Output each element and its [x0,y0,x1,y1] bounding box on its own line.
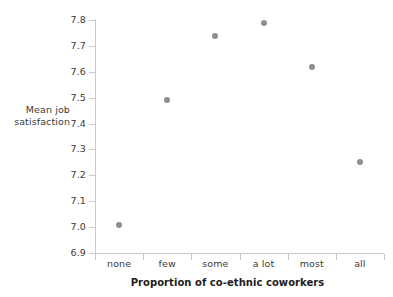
scatter-chart: 7.87.77.67.57.47.37.27.17.06.9 nonefewso… [0,0,393,297]
y-axis-tick-label: 7.6 [71,67,86,77]
y-axis-tick [89,124,95,125]
data-point [261,20,267,26]
x-axis-tick [240,254,241,260]
y-axis-tick [89,46,95,47]
x-axis-title: Proportion of co-ethnic coworkers [0,277,393,288]
x-axis-tick [143,254,144,260]
y-axis-tick-label: 7.8 [71,15,86,25]
y-axis-tick [89,227,95,228]
x-axis-category-label: a lot [253,258,275,269]
y-axis-tick-label: 6.9 [71,248,86,258]
x-axis-category-label: all [354,258,365,269]
x-axis-category-label: some [202,258,228,269]
y-axis-tick-label: 7.7 [71,41,86,51]
y-axis-title: Mean job satisfaction [4,104,70,128]
data-point [116,222,122,228]
y-axis-title-line-1: Mean job [4,104,70,116]
y-axis-tick [89,72,95,73]
y-axis-tick-label: 7.2 [71,171,86,181]
y-axis-tick [89,149,95,150]
y-axis-tick-label: 7.5 [71,93,86,103]
y-axis-tick [89,201,95,202]
y-axis-title-line-2: satisfaction [4,116,70,128]
y-axis-tick-label: 7.0 [71,222,86,232]
data-point [212,33,218,39]
x-axis-tick [336,254,337,260]
x-axis-category-label: few [159,258,176,269]
y-axis-line [95,19,96,254]
y-axis-tick-label: 7.1 [71,196,86,206]
y-axis-tick [89,20,95,21]
x-axis-tick [384,254,385,260]
x-axis-category-label: most [300,258,324,269]
data-point [309,64,315,70]
x-axis-tick [95,254,96,260]
y-axis-tick-label: 7.4 [71,119,86,129]
x-axis-category-label: none [107,258,131,269]
x-axis-tick [191,254,192,260]
y-axis-tick [89,98,95,99]
y-axis-tick [89,175,95,176]
y-axis-tick-label: 7.3 [71,145,86,155]
plot-area [96,20,384,253]
x-axis-tick [288,254,289,260]
